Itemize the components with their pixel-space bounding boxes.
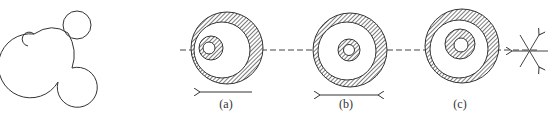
star-direction-icon	[512, 35, 548, 67]
label-c: (c)	[453, 97, 466, 112]
diagram-canvas	[0, 0, 559, 118]
label-a: (a)	[219, 97, 232, 112]
panel-b	[313, 13, 387, 95]
panel-a	[191, 12, 263, 92]
label-b: (b)	[339, 97, 353, 112]
panel-c	[425, 9, 499, 83]
bubble-cluster	[0, 11, 97, 107]
